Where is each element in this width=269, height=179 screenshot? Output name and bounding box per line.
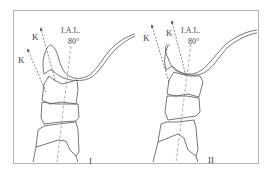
panel-label-2: II xyxy=(208,155,214,165)
tooth-lower xyxy=(36,122,79,156)
tooth-lower xyxy=(158,120,198,156)
k-arrow-1 xyxy=(41,29,55,80)
root-left xyxy=(33,147,36,162)
k-label-1: K xyxy=(166,28,173,38)
panel-label-1: I xyxy=(89,156,92,166)
k-label-1: K xyxy=(32,32,39,42)
curve-inner xyxy=(52,37,135,81)
ial-label: I.A.L. xyxy=(181,26,200,35)
k-label-2: K xyxy=(143,33,150,43)
curve-outer xyxy=(47,34,135,78)
k-label-2: K xyxy=(18,55,25,65)
tooth-upper xyxy=(167,72,203,97)
angle-label: 80° xyxy=(68,37,79,46)
figure-frame xyxy=(14,11,259,164)
ial-label: I.A.L. xyxy=(61,26,80,35)
dental-diagram: K K I.A.L. 80° I K K I.A.L. 80° II xyxy=(0,0,269,179)
panel-2: K K I.A.L. 80° II xyxy=(143,22,257,165)
root-right xyxy=(196,156,198,162)
root-right xyxy=(76,156,78,162)
incisal-axis-line xyxy=(176,44,191,162)
curve-inner xyxy=(172,33,257,75)
root-left xyxy=(153,142,158,162)
tooth-middle xyxy=(41,102,79,124)
angle-label: 80° xyxy=(188,37,199,46)
panel-1: K K I.A.L. 80° I xyxy=(18,26,135,166)
tooth-middle xyxy=(165,96,200,120)
